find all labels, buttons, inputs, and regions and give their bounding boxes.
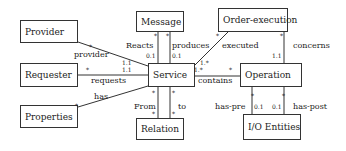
class-operation[interactable]: Operation bbox=[240, 63, 302, 87]
class-message[interactable]: Message bbox=[136, 11, 184, 32]
association-label-provider: provider bbox=[74, 51, 109, 59]
multiplicity: * bbox=[166, 33, 169, 39]
multiplicity: * bbox=[282, 93, 285, 99]
multiplicity: 0.1 bbox=[172, 53, 182, 59]
class-service[interactable]: Service bbox=[148, 63, 195, 87]
class-order-execution[interactable]: Order-execution bbox=[218, 8, 288, 32]
multiplicity: 0.1 bbox=[146, 53, 156, 59]
class-label: Message bbox=[141, 17, 181, 27]
association-label-to: to bbox=[178, 103, 186, 111]
class-relation[interactable]: Relation bbox=[136, 118, 184, 140]
multiplicity: * bbox=[75, 103, 78, 109]
multiplicity: * bbox=[229, 67, 232, 73]
class-provider[interactable]: Provider bbox=[20, 20, 78, 43]
association-label-reacts: Reacts bbox=[126, 42, 153, 50]
class-label: Service bbox=[153, 70, 187, 80]
multiplicity: * bbox=[154, 33, 157, 39]
association-label-contains: contains bbox=[198, 77, 232, 85]
class-requester[interactable]: Requester bbox=[20, 63, 78, 87]
class-label: Relation bbox=[141, 124, 179, 134]
multiplicity: * bbox=[251, 93, 254, 99]
multiplicity: * bbox=[172, 111, 175, 117]
multiplicity: 0.1 bbox=[254, 104, 264, 110]
class-properties[interactable]: Properties bbox=[20, 105, 78, 128]
class-label: Operation bbox=[245, 70, 291, 80]
multiplicity: 1.1 bbox=[122, 67, 132, 73]
association-label-has-post: has-post bbox=[293, 103, 327, 111]
multiplicity: * bbox=[280, 33, 283, 39]
class-label: Properties bbox=[25, 112, 73, 122]
multiplicity: 1.1 bbox=[272, 53, 282, 59]
association-label-concerns: concerns bbox=[293, 42, 330, 50]
class-label: I/O Entities bbox=[248, 122, 300, 132]
multiplicity: * bbox=[172, 90, 175, 96]
association-label-has: has bbox=[94, 93, 108, 101]
association-label-requests: requests bbox=[91, 77, 126, 85]
association-label-executed: executed bbox=[222, 42, 259, 50]
multiplicity: * bbox=[216, 33, 219, 39]
multiplicity: * bbox=[152, 111, 155, 117]
class-label: Order-execution bbox=[223, 15, 297, 25]
association-label-has-pre: has-pre bbox=[215, 103, 245, 111]
multiplicity: * bbox=[86, 67, 89, 73]
class-label: Provider bbox=[25, 27, 64, 37]
class-io-entities[interactable]: I/O Entities bbox=[243, 114, 301, 140]
multiplicity: * bbox=[152, 90, 155, 96]
multiplicity: 1.* bbox=[194, 67, 203, 73]
association-label-produces: produces bbox=[172, 42, 209, 50]
multiplicity: 0.1 bbox=[272, 104, 282, 110]
class-label: Requester bbox=[25, 70, 72, 80]
